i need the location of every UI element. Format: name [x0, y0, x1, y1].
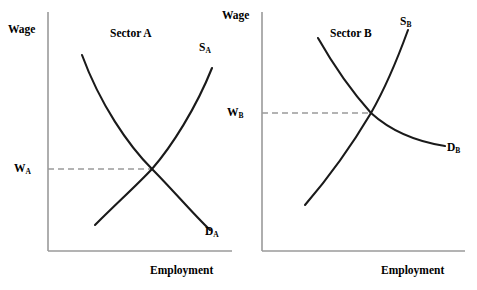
supply-curve-label-sector-b: SB: [400, 16, 411, 28]
panel-title-sector-a: Sector A: [110, 28, 152, 40]
supply-label-subscript-a: A: [205, 46, 210, 55]
panel-title-sector-b: Sector B: [330, 28, 372, 40]
x-axis-label-sector-a: Employment: [150, 265, 213, 277]
y-axis-label-sector-b: Wage: [222, 10, 249, 22]
supply-curve-sector-b: [305, 30, 408, 205]
panel-sector-b-axes: [262, 12, 465, 251]
wage-label-base-a: W: [14, 162, 26, 174]
wage-label-subscript-b: B: [239, 111, 244, 120]
y-axis-label-sector-a: Wage: [8, 24, 35, 36]
equilibrium-wage-label-sector-b: WB: [227, 107, 244, 119]
wage-label-subscript-a: A: [26, 167, 31, 176]
demand-label-subscript-a: A: [213, 230, 218, 239]
supply-curve-label-sector-a: SA: [199, 42, 211, 54]
demand-curve-sector-a: [82, 55, 210, 230]
demand-curve-label-sector-a: DA: [205, 226, 219, 238]
demand-curve-label-sector-b: DB: [447, 142, 460, 154]
demand-label-subscript-b: B: [455, 146, 460, 155]
supply-label-subscript-b: B: [406, 20, 411, 29]
equilibrium-wage-label-sector-a: WA: [14, 163, 31, 175]
wage-label-base-b: W: [227, 106, 239, 118]
two-sector-labor-market-figure: Wage Sector A SA DA WA Employment Wage S…: [0, 0, 477, 290]
figure-canvas: [0, 0, 477, 290]
supply-curve-sector-a: [95, 68, 212, 225]
x-axis-label-sector-b: Employment: [381, 265, 444, 277]
